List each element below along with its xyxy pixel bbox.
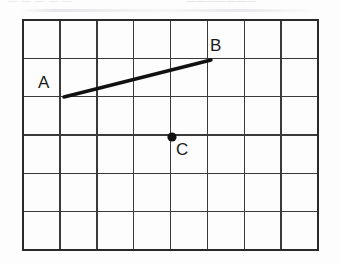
- grid-canvas: [0, 0, 340, 264]
- point-c-label: C: [176, 141, 188, 158]
- point-b-label: B: [210, 37, 221, 54]
- point-a-label: A: [38, 74, 49, 91]
- geometry-figure: — — — — — ——————— A B: [0, 0, 340, 264]
- segment-ab: [64, 60, 211, 97]
